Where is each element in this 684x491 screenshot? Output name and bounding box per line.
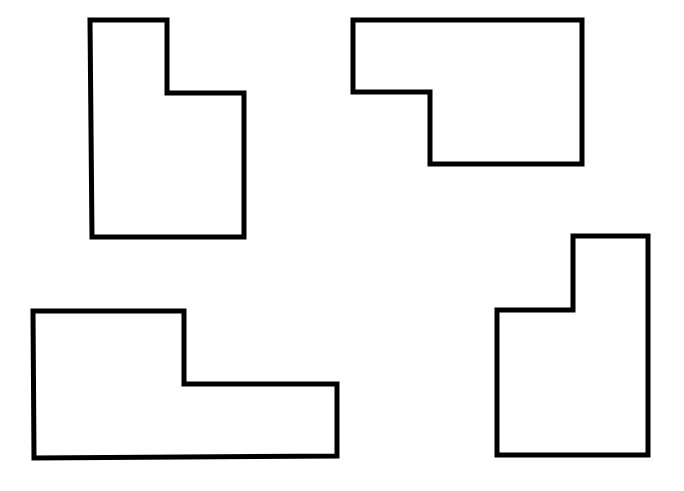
l-shape-top-right: [353, 20, 582, 164]
l-shape-bottom-right: [497, 236, 648, 455]
shapes-canvas: [0, 0, 684, 491]
l-shape-top-left: [90, 20, 244, 237]
l-shape-bottom-left: [33, 311, 337, 458]
